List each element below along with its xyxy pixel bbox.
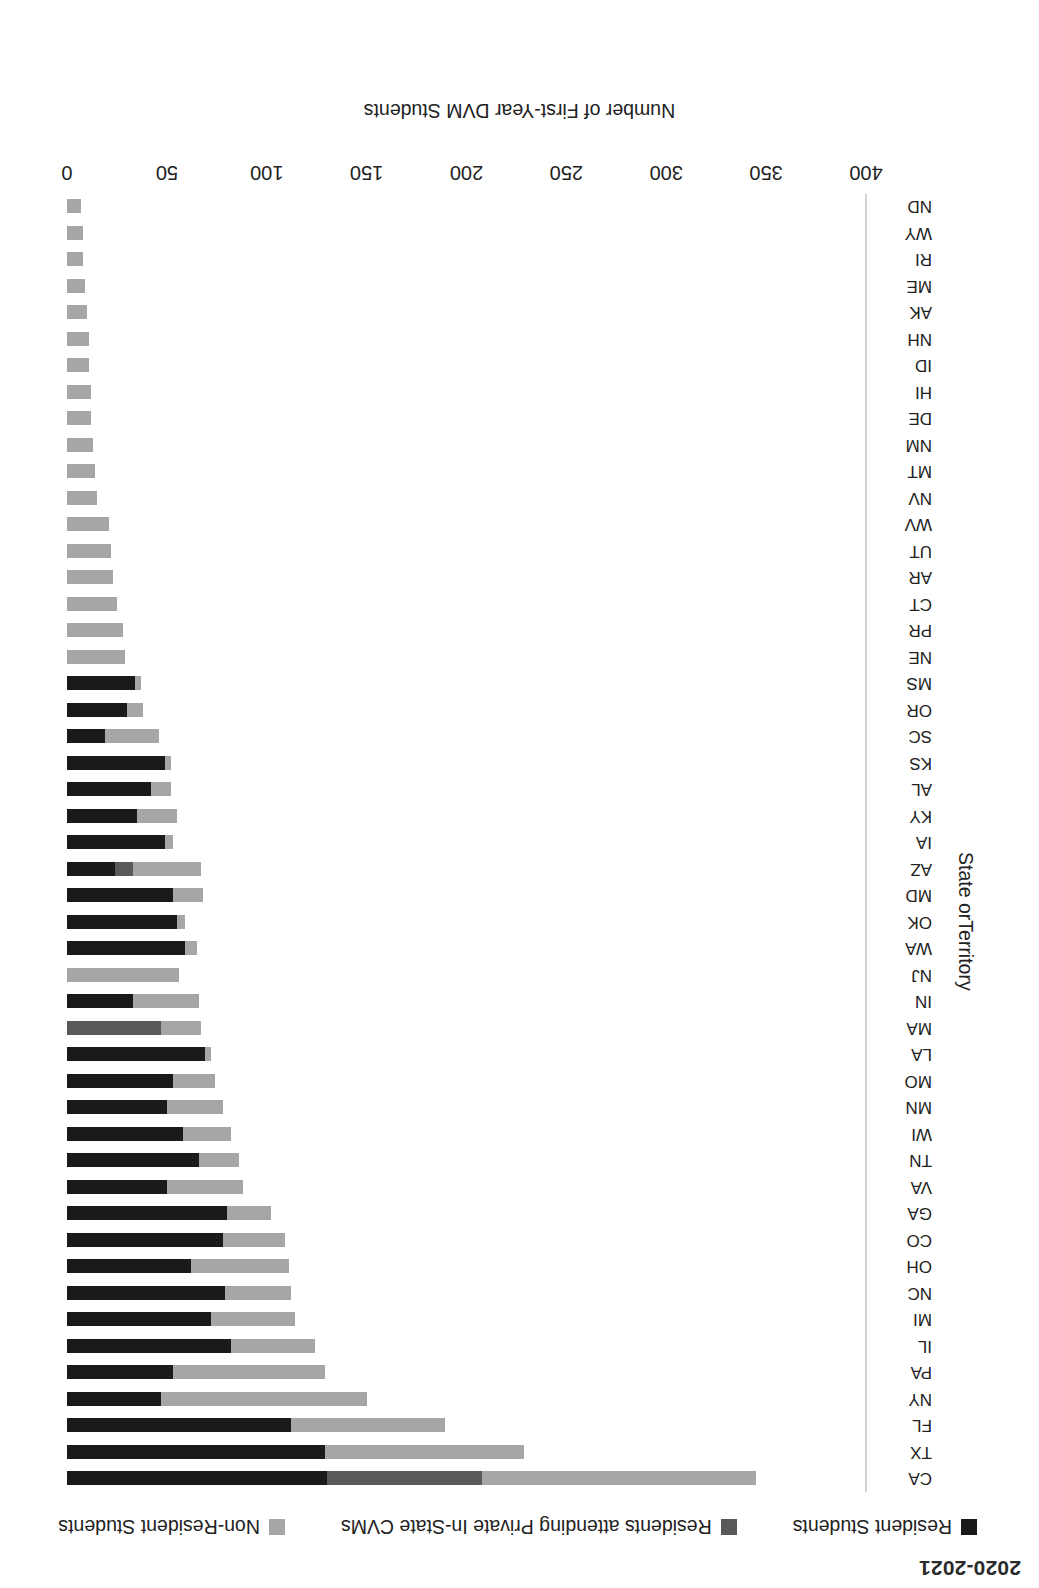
bar-row[interactable]: DE [67, 404, 866, 433]
bar-row[interactable]: NY [67, 1384, 866, 1413]
bar-row[interactable]: GA [67, 1198, 866, 1227]
bar-row[interactable]: NV [67, 483, 866, 512]
bar-row[interactable]: AK [67, 298, 866, 327]
bar-segment [67, 385, 91, 399]
bar-row[interactable]: PR [67, 616, 866, 645]
bar-row[interactable]: OR [67, 695, 866, 724]
bar-segment [67, 597, 117, 611]
bar-row[interactable]: HI [67, 377, 866, 406]
bar-row[interactable]: AR [67, 563, 866, 592]
bar-segment [205, 1047, 211, 1061]
bar-segment [67, 226, 83, 240]
category-tick-label: HI [872, 377, 932, 406]
bar-segment [67, 1127, 183, 1141]
chart-canvas: 2020-2021 Resident Students Residents at… [0, 0, 1039, 1588]
bar-row[interactable]: UT [67, 536, 866, 565]
bar-segment [137, 809, 177, 823]
legend-label: Non-Resident Students [58, 1516, 260, 1539]
bar-segment [223, 1233, 285, 1247]
bar-row[interactable]: MD [67, 880, 866, 909]
stacked-bar [67, 994, 199, 1008]
category-tick-label: AK [872, 298, 932, 327]
bar-row[interactable]: AZ [67, 854, 866, 883]
bar-row[interactable]: TN [67, 1145, 866, 1174]
bar-row[interactable]: AL [67, 774, 866, 803]
bar-row[interactable]: PA [67, 1357, 866, 1386]
bar-row[interactable]: NH [67, 324, 866, 353]
bar-segment [67, 252, 83, 266]
bar-segment [165, 756, 171, 770]
category-tick-label: RI [872, 245, 932, 274]
bar-row[interactable]: SC [67, 721, 866, 750]
stacked-bar [67, 650, 125, 664]
bar-segment [173, 1365, 325, 1379]
bar-row[interactable]: WY [67, 218, 866, 247]
category-tick-label: IL [872, 1331, 932, 1360]
bar-row[interactable]: CT [67, 589, 866, 618]
value-tick-label: 50 [156, 161, 178, 184]
bar-segment [291, 1418, 445, 1432]
bar-row[interactable]: NM [67, 430, 866, 459]
bar-row[interactable]: KY [67, 801, 866, 830]
bar-segment [227, 1206, 271, 1220]
bar-row[interactable]: ND [67, 192, 866, 221]
stacked-bar [67, 862, 201, 876]
bar-row[interactable]: NE [67, 642, 866, 671]
legend-item-non-resident-students[interactable]: Non-Resident Students [58, 1516, 285, 1539]
bar-segment [133, 862, 201, 876]
bar-row[interactable]: WI [67, 1119, 866, 1148]
category-tick-label: MS [872, 668, 932, 697]
bar-row[interactable]: TX [67, 1437, 866, 1466]
bar-row[interactable]: IN [67, 986, 866, 1015]
stacked-bar [67, 729, 159, 743]
bar-row[interactable]: CO [67, 1225, 866, 1254]
bar-segment [115, 862, 133, 876]
stacked-bar [67, 332, 89, 346]
bar-row[interactable]: WA [67, 933, 866, 962]
square-swatch-icon [961, 1519, 977, 1535]
bar-row[interactable]: MT [67, 457, 866, 486]
bar-row[interactable]: IL [67, 1331, 866, 1360]
bar-row[interactable]: KS [67, 748, 866, 777]
stacked-bar [67, 1445, 524, 1459]
bar-row[interactable]: NC [67, 1278, 866, 1307]
bar-row[interactable]: LA [67, 1039, 866, 1068]
bar-segment [67, 305, 87, 319]
bar-segment [127, 703, 143, 717]
bar-row[interactable]: CA [67, 1463, 866, 1492]
stacked-bar [67, 279, 85, 293]
bar-segment [67, 941, 185, 955]
square-swatch-icon [721, 1519, 737, 1535]
bar-row[interactable]: IA [67, 827, 866, 856]
bar-row[interactable]: NJ [67, 960, 866, 989]
bar-row[interactable]: FL [67, 1410, 866, 1439]
bar-row[interactable]: MA [67, 1013, 866, 1042]
legend-item-private-in-state[interactable]: Residents attending Private In-State CVM… [341, 1516, 737, 1539]
bar-row[interactable]: MO [67, 1066, 866, 1095]
bar-segment [67, 835, 165, 849]
bar-row[interactable]: OK [67, 907, 866, 936]
category-tick-label: GA [872, 1198, 932, 1227]
bar-segment [67, 623, 123, 637]
value-tick-label: 400 [849, 161, 882, 184]
bar-row[interactable]: WV [67, 510, 866, 539]
bar-row[interactable]: MI [67, 1304, 866, 1333]
stacked-bar [67, 1074, 215, 1088]
bar-row[interactable]: VA [67, 1172, 866, 1201]
bar-segment [67, 332, 89, 346]
bar-segment [67, 676, 135, 690]
bar-segment [67, 1471, 327, 1485]
bar-row[interactable]: ID [67, 351, 866, 380]
bar-segment [177, 915, 185, 929]
bar-row[interactable]: ME [67, 271, 866, 300]
stacked-bar [67, 1418, 445, 1432]
bar-row[interactable]: RI [67, 245, 866, 274]
stacked-bar [67, 544, 111, 558]
bar-row[interactable]: MN [67, 1092, 866, 1121]
bar-row[interactable]: MS [67, 668, 866, 697]
bar-row[interactable]: OH [67, 1251, 866, 1280]
stacked-bar [67, 1339, 315, 1353]
legend-item-resident-students[interactable]: Resident Students [793, 1516, 977, 1539]
value-tick-label: 150 [350, 161, 383, 184]
category-tick-label: UT [872, 536, 932, 565]
